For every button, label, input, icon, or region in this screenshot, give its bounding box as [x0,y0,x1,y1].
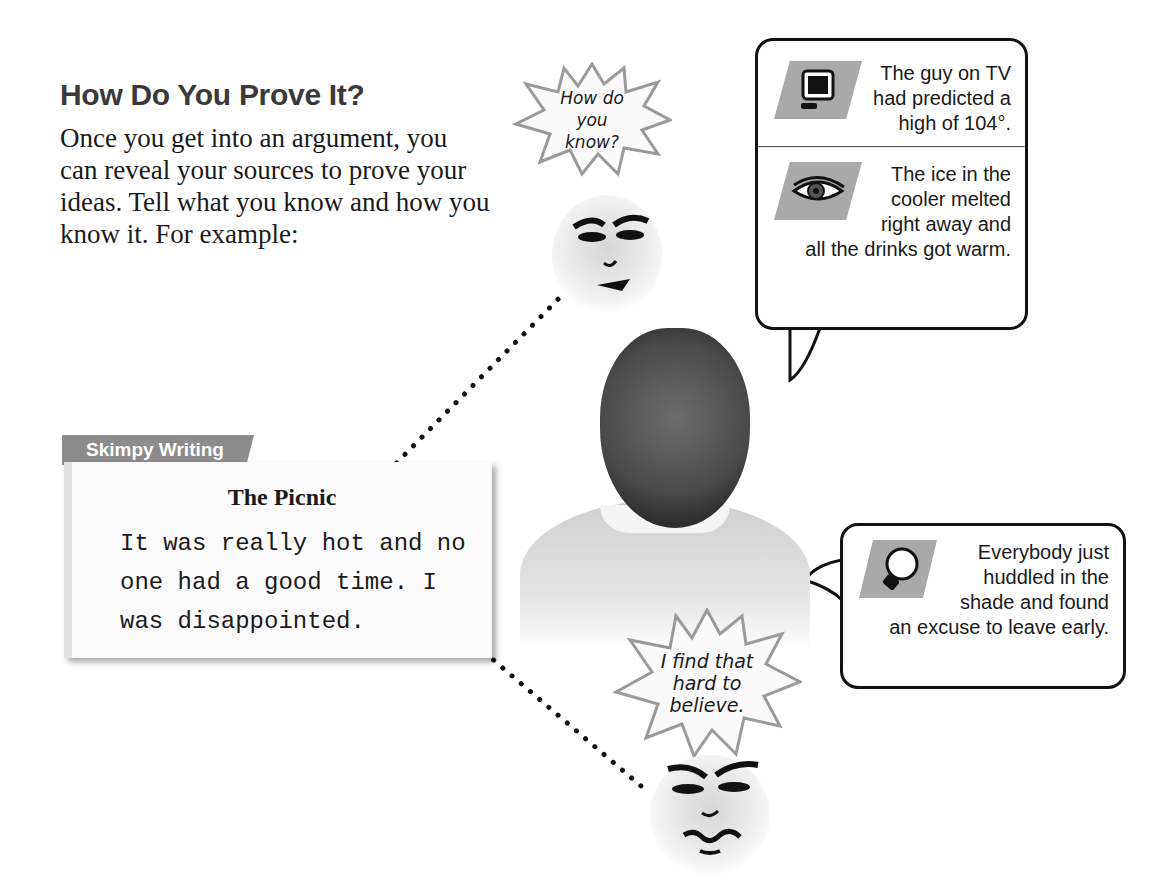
bubble-tail-right [805,560,842,600]
card-body: It was really hot and no one had a good … [120,524,480,641]
speech-burst-top: How do you know? [512,62,672,177]
speech-burst-bottom: I find that hard to believe. [612,608,802,758]
evidence-bubble-right: Everybody just huddled in the shade and … [840,523,1126,689]
evidence-item-lightbulb: Everybody just huddled in the shade and … [843,526,1123,650]
smiling-person [600,328,750,528]
skeptical-face-top [552,195,662,315]
evidence-item-tv: The guy on TV had predicted a high of 10… [758,41,1025,146]
evidence-item-eye: The ice in the cooler melted right away … [758,148,1025,272]
doubtful-face-icon [650,755,770,875]
skimpy-writing-tab: Skimpy Writing [62,435,254,465]
frown-face-icon [552,195,662,315]
skimpy-writing-card: The Picnic It was really hot and no one … [64,462,492,658]
skeptical-face-bottom [650,755,770,875]
evidence-bubble-top: The guy on TV had predicted a high of 10… [755,38,1028,330]
bubble-tail-top [790,328,820,380]
card-title: The Picnic [72,484,492,511]
